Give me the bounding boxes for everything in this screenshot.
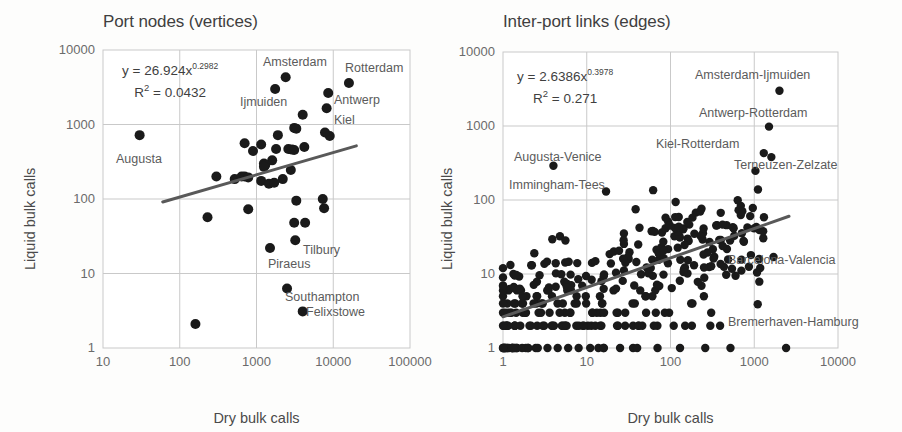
point-label: Ijmuiden — [240, 95, 287, 109]
x-tick-label: 10000 — [293, 354, 373, 369]
y-tick-label: 1000 — [425, 118, 495, 133]
x-axis-title: Dry bulk calls — [503, 410, 838, 426]
point-label: Tilbury — [303, 243, 340, 257]
point-label: Kiel — [334, 113, 355, 127]
y-axis-title: Liquid bulk calls — [439, 168, 455, 270]
x-tick-label: 10 — [547, 354, 627, 369]
y-tick-label: 1 — [425, 340, 495, 355]
x-tick-label: 100000 — [370, 354, 450, 369]
point-label: Piraeus — [268, 257, 310, 271]
y-tick-label: 10 — [25, 266, 95, 281]
y-axis-title: Liquid bulk calls — [22, 168, 38, 270]
x-tick-label: 1000 — [217, 354, 297, 369]
y-tick-label: 10000 — [25, 42, 95, 57]
point-label: Rotterdam — [345, 61, 403, 75]
y-tick-label: 100 — [425, 192, 495, 207]
point-label: Felixstowe — [306, 305, 365, 319]
x-tick-label: 100 — [631, 354, 711, 369]
point-label: Southampton — [285, 290, 359, 304]
x-tick-label: 1 — [463, 354, 543, 369]
regression-equation-line: y = 2.6386x0.3978 — [517, 66, 613, 87]
x-tick-label: 10000 — [798, 354, 878, 369]
y-tick-label: 1 — [25, 340, 95, 355]
figure-root: Port nodes (vertices) y = 26.924x0.2982 … — [0, 0, 902, 432]
x-tick-label: 100 — [140, 354, 220, 369]
point-label: Amsterdam-Ijmuiden — [695, 68, 810, 82]
point-label: Immingham-Tees — [509, 178, 605, 192]
regression-equation-line: y = 26.924x0.2982 — [122, 60, 218, 81]
point-label: Augusta — [116, 152, 162, 166]
regression-r2-line: R2 = 0.271 — [517, 87, 613, 109]
point-label: Augusta-Venice — [514, 150, 602, 164]
x-tick-label: 10 — [63, 354, 143, 369]
chart-panel-port-nodes: Port nodes (vertices) y = 26.924x0.2982 … — [0, 0, 451, 432]
y-tick-label: 100 — [25, 191, 95, 206]
regression-equation: y = 26.924x0.2982 R2 = 0.0432 — [122, 60, 218, 104]
point-label: Antwerp-Rotterdam — [699, 106, 807, 120]
x-tick-label: 1000 — [714, 354, 794, 369]
regression-equation: y = 2.6386x0.3978 R2 = 0.271 — [517, 66, 613, 110]
y-tick-label: 1000 — [25, 117, 95, 132]
point-label: Amsterdam — [263, 55, 327, 69]
x-axis-title: Dry bulk calls — [103, 410, 410, 426]
chart-panel-inter-port-links: Inter-port links (edges) y = 2.6386x0.39… — [451, 0, 902, 432]
y-tick-label: 10 — [425, 266, 495, 281]
point-label: Kiel-Rotterdam — [656, 137, 739, 151]
point-label: Antwerp — [334, 93, 380, 107]
point-label: Bremerhaven-Hamburg — [728, 315, 859, 329]
point-label: Barcelona-Valencia — [728, 253, 835, 267]
point-label: Terneuzen-Zelzate — [734, 158, 838, 172]
y-tick-label: 10000 — [425, 44, 495, 59]
regression-r2-line: R2 = 0.0432 — [122, 81, 218, 103]
